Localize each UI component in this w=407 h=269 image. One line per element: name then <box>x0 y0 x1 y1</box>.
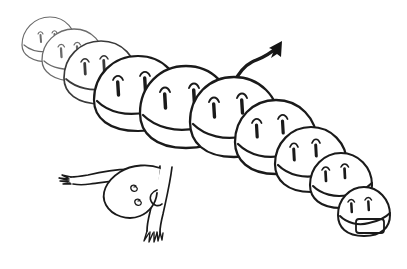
head-outline <box>338 187 390 236</box>
illustration-canvas <box>0 0 407 269</box>
segment-9-eye-left <box>326 172 327 182</box>
toe <box>63 183 71 184</box>
segment-3-eye-right <box>104 61 105 72</box>
head-eye-left <box>351 204 352 213</box>
segment-6-eye-right <box>242 100 243 113</box>
head-eye-right <box>368 202 369 211</box>
segment-2-eye-left <box>61 49 62 58</box>
caterpillar-illustration <box>0 0 407 269</box>
segment-3-eye-left <box>85 64 86 75</box>
segment-9-eye-right <box>345 169 346 179</box>
segment-5-eye-left <box>165 94 166 108</box>
segment-10-head <box>338 187 390 236</box>
segment-6-eye-left <box>214 104 215 117</box>
toe <box>60 181 69 182</box>
segment-8-eye-left <box>294 149 295 160</box>
segment-7-eye-right <box>283 121 284 133</box>
segment-4-eye-left <box>118 82 119 95</box>
segment-1-eye-left <box>41 35 42 42</box>
segment-8-eye-right <box>316 145 317 156</box>
segment-7-eye-left <box>257 125 258 137</box>
